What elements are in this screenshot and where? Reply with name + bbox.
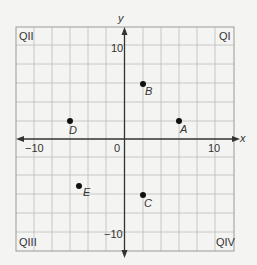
quadrant-label-2: QII [19,31,34,42]
point-e [76,183,82,189]
origin-label: 0 [114,143,120,154]
y-tick-neg10: −10 [104,229,123,240]
x-axis-label: x [240,133,246,144]
y-tick-10: 10 [111,43,123,54]
quadrant-label-3: QIII [19,237,37,248]
x-tick-neg10: −10 [25,143,44,154]
point-label-e: E [83,187,90,198]
point-label-b: B [145,86,152,97]
point-label-c: C [144,198,152,209]
quadrant-label-4: QIV [216,237,235,248]
axis-arrows [16,27,240,258]
y-axis-label: y [118,13,124,24]
x-tick-10: 10 [208,143,220,154]
point-label-a: A [180,124,187,135]
quadrant-label-1: QI [219,31,231,42]
point-label-d: D [69,125,77,136]
